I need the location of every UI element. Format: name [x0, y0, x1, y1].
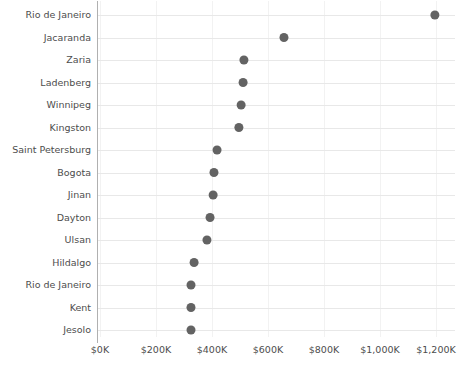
y-axis-tick-label: Bogota	[57, 167, 91, 178]
data-point[interactable]: Saint Petersburg	[213, 146, 222, 155]
data-point[interactable]: Kent	[187, 303, 196, 312]
horizontal-gridlines	[97, 16, 456, 331]
y-axis-tick-label: Kent	[70, 302, 92, 313]
y-axis-tick-label: Jinan	[67, 189, 91, 200]
data-point[interactable]: Jacaranda	[279, 33, 288, 42]
x-axis-tick-label: $400K	[197, 344, 228, 355]
data-point[interactable]: Kingston	[234, 123, 243, 132]
data-point[interactable]: Rio de Janeiro	[430, 11, 439, 20]
y-axis-tick-label: Winnipeg	[47, 99, 91, 110]
data-point[interactable]: Bogota	[209, 168, 218, 177]
x-axis-tick-label: $1,000K	[360, 344, 400, 355]
x-axis-tick-label: $1,200K	[416, 344, 456, 355]
y-axis-tick-labels: Rio de JaneiroJacarandaZariaLadenbergWin…	[12, 9, 91, 335]
y-axis-tick-label: Rio de Janeiro	[25, 279, 91, 290]
y-axis-tick-label: Rio de Janeiro	[25, 9, 91, 20]
y-axis-tick-label: Ladenberg	[40, 77, 91, 88]
x-axis-tick-label: $600K	[253, 344, 284, 355]
y-axis-tick-label: Saint Petersburg	[12, 144, 91, 155]
data-point[interactable]: Hildalgo	[190, 258, 199, 267]
y-axis-tick-label: Hildalgo	[52, 257, 91, 268]
y-axis-tick-label: Ulsan	[65, 234, 91, 245]
data-point[interactable]: Zaria	[239, 56, 248, 65]
vertical-gridlines	[101, 1, 437, 337]
x-axis-tick-label: $800K	[309, 344, 340, 355]
x-axis-tick-labels: $0K$200K$400K$600K$800K$1,000K$1,200K	[91, 344, 457, 355]
data-point[interactable]: Ladenberg	[239, 78, 248, 87]
chart-canvas: Rio de JaneiroJacarandaZariaLadenbergWin…	[0, 0, 463, 365]
data-point[interactable]: Winnipeg	[237, 101, 246, 110]
y-axis-tick-label: Jacaranda	[43, 32, 91, 43]
y-axis-tick-label: Kingston	[50, 122, 91, 133]
data-point[interactable]: Jesolo	[187, 326, 196, 335]
data-point[interactable]: Ulsan	[202, 236, 211, 245]
y-axis-tick-label: Jesolo	[62, 324, 91, 335]
dot-plot-chart: Rio de JaneiroJacarandaZariaLadenbergWin…	[0, 0, 463, 365]
data-point[interactable]: Rio de Janeiro	[187, 281, 196, 290]
y-axis-tick-label: Dayton	[57, 212, 91, 223]
data-point[interactable]: Jinan	[209, 191, 218, 200]
data-point[interactable]: Dayton	[206, 213, 215, 222]
y-axis-tick-label: Zaria	[66, 54, 91, 65]
x-axis-tick-label: $0K	[91, 344, 110, 355]
x-axis-tick-label: $200K	[141, 344, 172, 355]
